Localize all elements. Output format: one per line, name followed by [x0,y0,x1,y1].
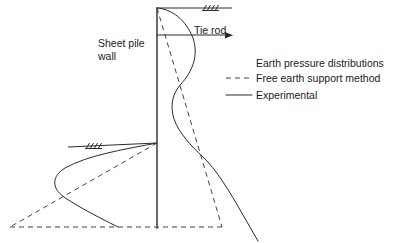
figure-root: Sheet pile wall Tie rod Earth pressure d… [0,0,398,243]
legend-item-experimental: Experimental [256,89,317,102]
legend-title: Earth pressure distributions [256,57,384,70]
free-earth-support-line-passive [10,143,157,227]
sheet-pile-wall-label: Sheet pile wall [98,37,156,63]
legend-item-free-earth-support: Free earth support method [256,72,380,85]
tie-rod-label: Tie rod [194,24,226,37]
free-earth-support-line-active [157,8,222,227]
dredge-line [68,143,157,147]
experimental-curve-passive [55,143,157,227]
experimental-curve-active [157,8,258,241]
